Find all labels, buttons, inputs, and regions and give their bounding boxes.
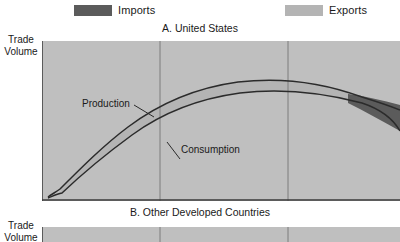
- panel-a-plot-background: [42, 41, 400, 201]
- panel-a-y-axis-label: Trade Volume: [0, 34, 42, 57]
- panel-b-y-axis-label: Trade Volume: [0, 220, 42, 242]
- figure-trade-volume: Imports Exports A. United States Trade V…: [0, 0, 400, 242]
- panel-a-title: A. United States: [0, 22, 400, 34]
- panel-a-y-axis-label-line1: Trade: [0, 34, 42, 46]
- panel-b-title: B. Other Developed Countries: [0, 206, 400, 218]
- legend: Imports Exports: [0, 0, 400, 18]
- production-label: Production: [82, 98, 130, 109]
- legend-label-exports: Exports: [329, 5, 367, 16]
- imports-color-swatch-icon: [74, 5, 112, 16]
- consumption-label: Consumption: [181, 144, 240, 155]
- panel-b-plot-area: [42, 227, 400, 242]
- panel-b-svg: [42, 227, 400, 242]
- legend-item-exports: Exports: [285, 1, 367, 19]
- legend-item-imports: Imports: [74, 1, 155, 19]
- legend-label-imports: Imports: [118, 5, 155, 16]
- panel-a-svg: [42, 41, 400, 201]
- panel-a-y-axis-label-line2: Volume: [0, 46, 42, 58]
- panel-a-plot-area: Production Consumption: [42, 41, 400, 201]
- panel-b-plot-background: [42, 227, 400, 242]
- panel-b-y-axis-label-line1: Trade: [0, 220, 42, 232]
- panel-b-y-axis-label-line2: Volume: [0, 232, 42, 242]
- exports-color-swatch-icon: [285, 5, 323, 16]
